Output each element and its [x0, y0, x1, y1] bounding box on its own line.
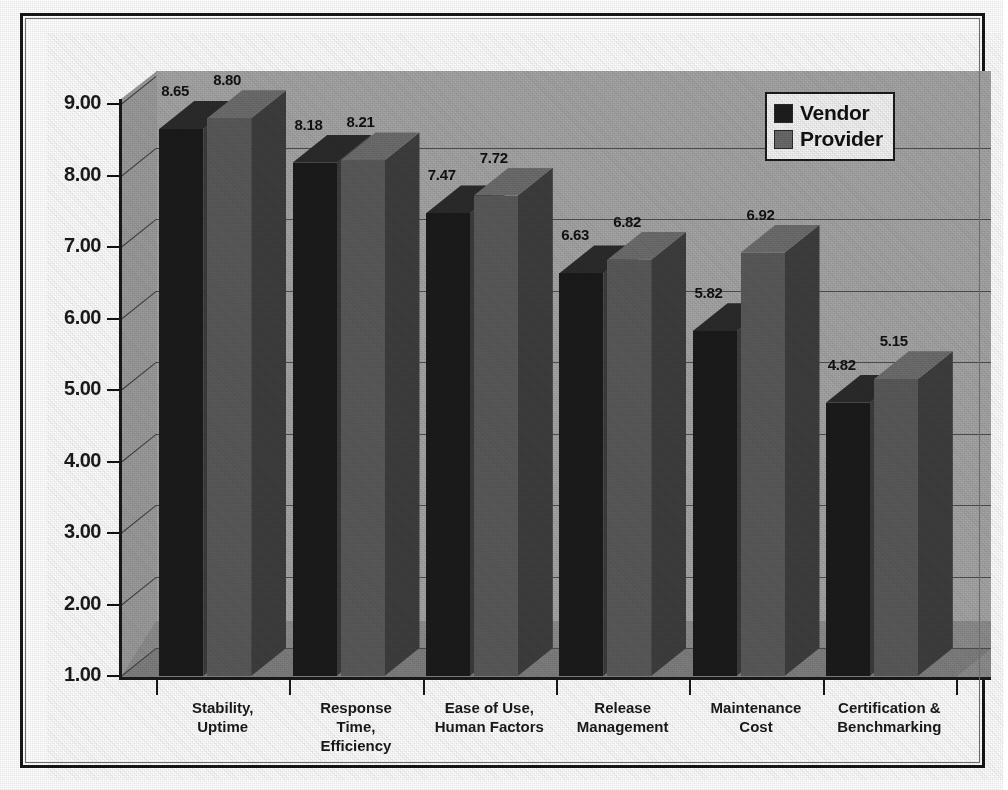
x-axis-label-0-line1: Stability,: [150, 698, 295, 717]
y-axis-label-1.00: 1.00: [29, 663, 101, 686]
x-tick-2: [423, 679, 425, 695]
legend-label-provider: Provider: [800, 127, 883, 151]
y-axis-label-2.00: 2.00: [29, 592, 101, 615]
y-axis-label-8.00: 8.00: [29, 163, 101, 186]
legend-label-vendor: Vendor: [800, 101, 869, 125]
x-axis-label-1-line3: Efficiency: [283, 736, 428, 755]
chart-legend: Vendor Provider: [765, 92, 895, 161]
x-axis-label-3-line1: Release: [550, 698, 695, 717]
x-tick-1: [289, 679, 291, 695]
legend-item-vendor: Vendor: [774, 101, 883, 125]
x-axis-label-3: ReleaseManagement: [550, 698, 695, 736]
bar-provider-5-side-face: [918, 351, 953, 676]
data-label-vendor-1: 8.18: [295, 116, 323, 133]
bar-provider-2-front-face: [474, 196, 518, 676]
y-axis-label-7.00: 7.00: [29, 234, 101, 257]
x-axis-label-2: Ease of Use,Human Factors: [417, 698, 562, 736]
bar-provider-2-side-face: [518, 168, 553, 676]
x-axis-label-4: MaintenanceCost: [683, 698, 828, 736]
legend-swatch-provider: [774, 130, 793, 149]
x-axis-label-4-line2: Cost: [683, 717, 828, 736]
bar-provider-5-front-face: [874, 379, 918, 676]
x-axis-label-1: ResponseTime,Efficiency: [283, 698, 428, 756]
bar-provider-1-side-face: [385, 132, 420, 676]
x-tick-0: [156, 679, 158, 695]
y-axis-line: [119, 99, 122, 679]
x-axis-label-2-line2: Human Factors: [417, 717, 562, 736]
bar-provider-3-side-face: [651, 232, 686, 676]
y-axis-label-5.00: 5.00: [29, 377, 101, 400]
chart-frame-border: 9.008.007.006.005.004.003.002.001.00 8.6…: [20, 13, 985, 768]
y-axis-label-9.00: 9.00: [29, 91, 101, 114]
x-tick-5: [823, 679, 825, 695]
bar-vendor-4-front-face: [693, 331, 737, 676]
bar-provider-5: [874, 351, 953, 676]
bar-vendor-5-front-face: [826, 403, 870, 676]
bar-vendor-0-front-face: [159, 129, 203, 676]
y-axis-label-3.00: 3.00: [29, 520, 101, 543]
x-axis-line: [119, 677, 991, 680]
bar-provider-3-front-face: [607, 260, 651, 676]
data-label-vendor-4: 5.82: [695, 284, 723, 301]
x-axis-label-0-line2: Uptime: [150, 717, 295, 736]
data-label-provider-5: 5.15: [880, 332, 908, 349]
bar-provider-3: [607, 232, 686, 676]
x-axis-label-5-line2: Benchmarking: [817, 717, 962, 736]
x-axis-label-3-line2: Management: [550, 717, 695, 736]
bar-provider-0-side-face: [251, 90, 286, 676]
x-axis-label-4-line1: Maintenance: [683, 698, 828, 717]
bar-provider-4: [741, 225, 820, 676]
bar-vendor-3-front-face: [559, 273, 603, 676]
bar-vendor-1-front-face: [293, 163, 337, 676]
x-tick-3: [556, 679, 558, 695]
legend-item-provider: Provider: [774, 127, 883, 151]
bar-provider-0-front-face: [207, 118, 251, 676]
x-axis-label-5-line1: Certification &: [817, 698, 962, 717]
bar-provider-2: [474, 168, 553, 676]
data-label-provider-1: 8.21: [347, 113, 375, 130]
bar-provider-4-side-face: [785, 225, 820, 676]
data-label-provider-2: 7.72: [480, 149, 508, 166]
bar-provider-4-front-face: [741, 253, 785, 676]
x-axis-label-1-line1: Response: [283, 698, 428, 717]
x-tick-4: [689, 679, 691, 695]
data-label-vendor-0: 8.65: [161, 82, 189, 99]
bar-provider-1-front-face: [341, 160, 385, 676]
bar-provider-0: [207, 90, 286, 676]
x-axis-label-5: Certification &Benchmarking: [817, 698, 962, 736]
bar-vendor-2-front-face: [426, 213, 470, 676]
data-label-provider-3: 6.82: [613, 213, 641, 230]
y-axis-label-4.00: 4.00: [29, 449, 101, 472]
data-label-provider-0: 8.80: [213, 71, 241, 88]
legend-swatch-vendor: [774, 104, 793, 123]
x-axis-label-2-line1: Ease of Use,: [417, 698, 562, 717]
data-label-vendor-5: 4.82: [828, 356, 856, 373]
x-tick-end: [956, 679, 958, 695]
x-axis-label-1-line2: Time,: [283, 717, 428, 736]
bar-provider-1: [341, 132, 420, 676]
data-label-provider-4: 6.92: [747, 206, 775, 223]
data-label-vendor-3: 6.63: [561, 226, 589, 243]
data-label-vendor-2: 7.47: [428, 166, 456, 183]
x-axis-label-0: Stability,Uptime: [150, 698, 295, 736]
y-axis-label-6.00: 6.00: [29, 306, 101, 329]
